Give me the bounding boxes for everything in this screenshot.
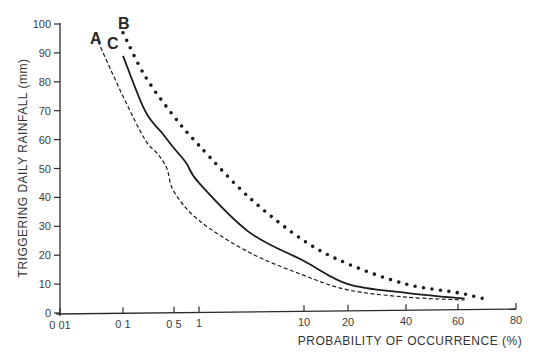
x-tick-label: 0 5 — [166, 318, 181, 330]
x-tick-label: 40 — [400, 315, 412, 327]
curve-label-a: A — [90, 30, 102, 47]
series-c-line — [123, 56, 465, 299]
y-tick-label: 100 — [33, 18, 51, 30]
series-group — [98, 33, 483, 300]
y-tick-label: 70 — [39, 105, 51, 117]
y-tick-label: 40 — [39, 191, 51, 203]
y-axis-title: TRIGGERING DAILY RAINFALL (mm) — [16, 59, 30, 278]
x-ticks: 0 010 10 511020406080 — [49, 303, 522, 331]
x-axis-title: PROBABILITY OF OCCURRENCE (%) — [298, 334, 522, 348]
axes — [56, 23, 516, 316]
curve-label-c: C — [107, 35, 119, 52]
y-tick-label: 50 — [39, 163, 51, 175]
y-tick-label: 80 — [39, 76, 51, 88]
y-ticks: 0102030405060708090100 — [33, 18, 60, 319]
x-tick-label: 0 01 — [49, 319, 70, 331]
x-tick-label: 1 — [196, 317, 202, 329]
x-tick-label: 20 — [342, 316, 354, 328]
x-tick-label: 60 — [452, 315, 464, 327]
series-b-line — [123, 33, 483, 299]
y-tick-label: 60 — [39, 134, 51, 146]
chart-canvas: 0102030405060708090100 0 010 10 51102040… — [0, 0, 534, 363]
series-a-line — [98, 41, 465, 300]
x-tick-label: 80 — [510, 314, 522, 326]
curve-label-b: B — [118, 15, 130, 32]
y-tick-label: 90 — [39, 47, 51, 59]
y-tick-label: 20 — [39, 249, 51, 261]
x-tick-label: 10 — [298, 316, 310, 328]
y-tick-label: 30 — [39, 220, 51, 232]
y-tick-label: 10 — [39, 278, 51, 290]
x-axis — [56, 309, 516, 314]
x-tick-label: 0 1 — [115, 318, 130, 330]
y-tick-label: 0 — [45, 307, 51, 319]
